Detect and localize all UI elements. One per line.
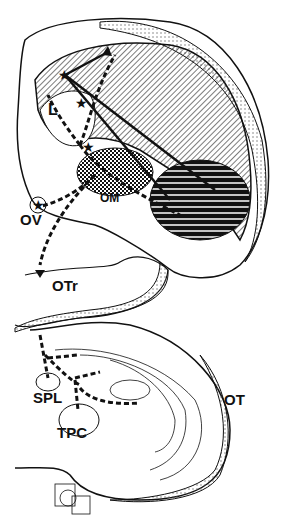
om-checkered-region (77, 148, 153, 196)
horizontal-striped-region (150, 160, 250, 240)
label-spl: SPL (33, 390, 62, 405)
svg-text:★: ★ (58, 67, 71, 83)
svg-text:★: ★ (75, 95, 88, 111)
ot-layers (55, 349, 202, 480)
svg-text:★: ★ (82, 139, 95, 155)
label-tpc: TPC (57, 425, 87, 440)
label-ov: OV (20, 212, 42, 227)
label-om: OM (100, 192, 119, 204)
diagram-canvas: ★ ★ ★ ★ (0, 0, 290, 531)
label-l: L (48, 102, 58, 118)
ot-outline (15, 323, 230, 500)
label-ot: OT (224, 392, 245, 407)
label-otr: OTr (52, 278, 78, 293)
